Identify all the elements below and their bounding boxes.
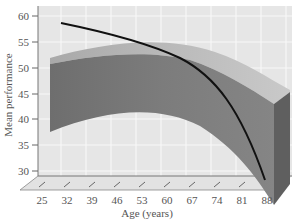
y-tick-label: 55 <box>18 36 30 48</box>
x-tick-label: 88 <box>262 194 274 206</box>
chart: 60 55 50 45 40 35 30 25 32 39 46 53 60 6… <box>0 0 292 221</box>
y-tick-label: 45 <box>18 88 30 100</box>
band-end-face <box>274 92 290 205</box>
x-tick-label: 46 <box>112 194 124 206</box>
x-tick-labels: 25 32 39 46 53 60 67 74 81 88 <box>37 194 274 206</box>
x-tick-label: 74 <box>212 194 224 206</box>
y-tick-label: 60 <box>18 10 30 22</box>
x-tick-label: 32 <box>62 194 73 206</box>
chart-floor <box>20 176 292 190</box>
x-tick-label: 60 <box>162 194 174 206</box>
x-tick-label: 67 <box>187 194 199 206</box>
y-tick-label: 50 <box>18 62 30 74</box>
x-axis-title: Age (years) <box>121 207 173 220</box>
x-tick-label: 25 <box>37 194 49 206</box>
y-tick-label: 30 <box>18 165 30 177</box>
y-axis-title: Mean performance <box>2 53 14 136</box>
x-tick-label: 39 <box>87 194 99 206</box>
y-tick-marks <box>32 16 38 171</box>
y-tick-labels: 60 55 50 45 40 35 30 <box>18 10 30 177</box>
y-tick-label: 40 <box>18 113 30 125</box>
x-tick-label: 53 <box>137 194 149 206</box>
x-tick-label: 81 <box>237 194 248 206</box>
y-tick-label: 35 <box>18 139 30 151</box>
